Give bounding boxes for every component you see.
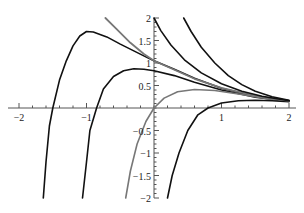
y-tick-label: −1	[140, 148, 151, 159]
curve-3-gray	[126, 90, 289, 199]
chart: −2−112−2−1.5−1−0.50.511.52	[0, 0, 304, 213]
curve-4	[168, 100, 290, 198]
curve-5-gray-upper	[105, 18, 289, 101]
y-tick-label: −1.5	[133, 171, 151, 182]
axes	[8, 18, 296, 198]
y-tick-label: 0.5	[139, 81, 152, 92]
y-tick-label: −0.5	[133, 126, 151, 137]
curve-1	[43, 32, 289, 199]
x-tick-label: 2	[287, 112, 292, 123]
x-tick-label: −2	[14, 112, 25, 123]
x-tick-label: −1	[81, 112, 92, 123]
y-tick-label: 2	[146, 13, 151, 24]
y-tick-label: 1.5	[139, 36, 152, 47]
y-tick-label: −2	[140, 193, 151, 204]
x-tick-label: 1	[219, 112, 224, 123]
curve-2	[83, 69, 290, 198]
curve-7	[184, 18, 289, 100]
y-tick-label: 1	[146, 58, 151, 69]
